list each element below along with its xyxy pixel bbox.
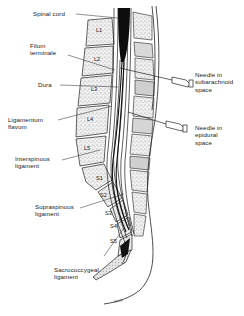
vertebra-l5 xyxy=(76,136,106,166)
label-interspinous-ligament: Interspinous ligament xyxy=(15,155,50,170)
label-ligamentum-flavum: Ligamentum flavum xyxy=(8,116,43,131)
label-filum-terminale: Filum terminale xyxy=(30,42,56,57)
vertebra-label-s3: S3 xyxy=(105,210,112,216)
needle-subarachnoid xyxy=(120,68,193,87)
vertebra-label-l4: L4 xyxy=(87,116,93,122)
label-supraspinous-ligament: Supraspinous ligament xyxy=(35,203,74,218)
label-sacrococcygeal-ligament: Sacrococcygeal ligament xyxy=(54,266,99,281)
label-needle-epidural: Needle in epidural space xyxy=(195,124,222,146)
vertebra-label-s2: S2 xyxy=(100,192,107,198)
label-spinal-cord: Spinal cord xyxy=(33,10,65,17)
spinal-cord xyxy=(118,8,130,62)
vertebra-label-l5: L5 xyxy=(84,145,90,151)
vertebra-label-l3: L3 xyxy=(91,86,97,92)
vertebra-label-s5: S5 xyxy=(110,238,117,244)
vertebra-label-l2: L2 xyxy=(94,56,100,62)
label-needle-subarachnoid: Needle in subarachnoid space xyxy=(195,71,233,93)
vertebra-label-l1: L1 xyxy=(96,27,102,33)
sacral-vertebrae xyxy=(82,164,132,280)
vertebra-label-s1: S1 xyxy=(96,175,103,181)
label-dura: Dura xyxy=(38,81,52,88)
artist-signature: Smith xyxy=(113,298,123,304)
anterior-vertebral-bodies xyxy=(130,12,154,236)
vertebra-label-s4: S4 xyxy=(110,223,117,229)
